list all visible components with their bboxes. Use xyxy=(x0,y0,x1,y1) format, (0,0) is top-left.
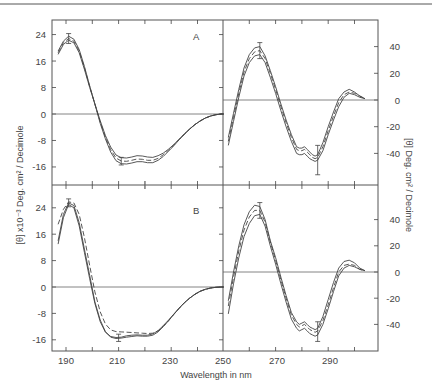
right-y-axis-title: [θ] Deg. cm² / Decimole xyxy=(404,138,414,232)
y-tick-label: -8 xyxy=(38,135,46,146)
cd-curve xyxy=(228,210,365,332)
figure-canvas: 241680-8-1640200-20-40241680-8-1640200-2… xyxy=(0,0,432,389)
zero-lines xyxy=(52,100,378,287)
left-y-axis-title: [θ] x10⁻³ Deg. cm² / Decimole xyxy=(15,125,25,244)
y-tick-label: 0 xyxy=(41,282,46,293)
cd-curve xyxy=(58,39,224,162)
data-curves xyxy=(58,36,365,338)
y-tick-label: -8 xyxy=(38,308,46,319)
y-tick-label: 0 xyxy=(395,95,400,106)
y-tick-label: -40 xyxy=(386,148,400,159)
y-tick-label: 0 xyxy=(41,109,46,120)
y-tick-label: 40 xyxy=(389,214,400,225)
y-tick-label: 0 xyxy=(395,267,400,278)
panel-label-b: B xyxy=(193,205,199,216)
y-tick-label: 8 xyxy=(41,82,46,93)
cd-curve xyxy=(58,36,224,164)
y-tick-label: 8 xyxy=(41,255,46,266)
y-tick-label: 20 xyxy=(389,68,400,79)
x-tick-label: 230 xyxy=(162,355,178,366)
cd-curve xyxy=(58,202,224,334)
y-tick-label: 20 xyxy=(389,240,400,251)
x-tick-label: 290 xyxy=(322,355,338,366)
y-tick-label: -40 xyxy=(386,319,400,330)
y-tick-label: 16 xyxy=(35,56,46,67)
x-tick-label: 270 xyxy=(269,355,285,366)
y-tick-label: -20 xyxy=(386,293,400,304)
cd-curve xyxy=(58,205,224,338)
x-axis-title: Wavelength in nm xyxy=(180,370,252,380)
cd-curve xyxy=(228,214,365,336)
x-tick-label: 190 xyxy=(58,355,74,366)
x-tick-label: 250 xyxy=(215,355,231,366)
x-tick-label: 210 xyxy=(109,355,125,366)
cd-curve xyxy=(58,40,224,158)
x-tick-labels: 190 210 230 250 270 290 xyxy=(58,355,338,366)
cd-curve xyxy=(58,203,224,339)
y-tick-label: -16 xyxy=(32,161,46,172)
y-tick-label: 40 xyxy=(389,41,400,52)
y-tick-label: 24 xyxy=(35,29,46,40)
cd-curve xyxy=(228,51,365,159)
panel-label-a: A xyxy=(193,31,200,42)
y-tick-label: -20 xyxy=(386,121,400,132)
y-tick-label: 16 xyxy=(35,229,46,240)
cd-curve xyxy=(228,55,365,162)
y-tick-label: 24 xyxy=(35,202,46,213)
y-tick-label: -16 xyxy=(32,334,46,345)
